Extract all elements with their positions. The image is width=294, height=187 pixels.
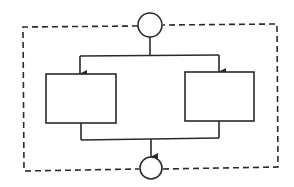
right-branch-box — [185, 72, 254, 121]
parallel-flow-diagram — [0, 0, 294, 187]
end-node — [140, 157, 162, 179]
fork-bar — [80, 55, 219, 56]
join-bar — [81, 138, 219, 140]
left-branch-box — [46, 74, 116, 123]
start-node — [138, 13, 162, 37]
